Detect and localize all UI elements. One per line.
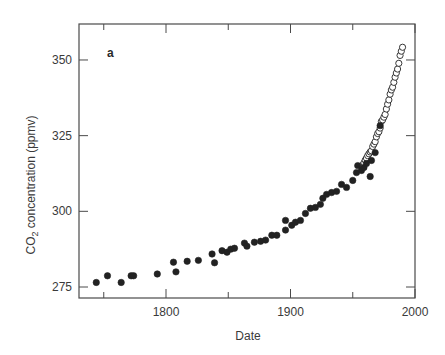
x-tick-label: 2000 — [402, 305, 429, 319]
x-tick-label: 1900 — [277, 305, 304, 319]
ice-core-point — [302, 210, 308, 216]
y-axis-title: CO2 concentration (ppmv) — [24, 115, 40, 254]
ice-core-point — [104, 273, 110, 279]
ice-core-point — [297, 217, 303, 223]
ice-core-point — [209, 251, 215, 257]
ice-core-point — [170, 259, 176, 265]
ice-core-point — [130, 273, 136, 279]
panel-label: a — [107, 46, 114, 60]
ice-core-point — [251, 239, 257, 245]
ice-core-point — [244, 243, 250, 249]
ice-core-point — [195, 257, 201, 263]
atmospheric-point — [394, 66, 400, 72]
ice-core-point — [274, 232, 280, 238]
y-axis-title-main: CO — [24, 237, 38, 255]
ice-core-point — [317, 201, 323, 207]
ice-core-point — [350, 177, 356, 183]
y-tick-label: 300 — [52, 204, 72, 218]
ice-core-point — [118, 279, 124, 285]
ice-core-point — [333, 188, 339, 194]
y-tick-label: 325 — [52, 129, 72, 143]
atmospheric-point — [386, 97, 392, 103]
ice-core-point — [343, 184, 349, 190]
co2-concentration-chart: 180019002000 275300325350 a Date CO2 con… — [0, 0, 445, 355]
ice-core-point — [173, 269, 179, 275]
ice-core-point — [154, 271, 160, 277]
ice-core-point — [377, 122, 383, 128]
y-tick-label: 275 — [52, 280, 72, 294]
ice-core-point — [282, 227, 288, 233]
x-axis-title: Date — [235, 329, 261, 343]
ice-core-point — [184, 258, 190, 264]
y-tick-label: 350 — [52, 53, 72, 67]
ice-core-point — [231, 245, 237, 251]
ice-core-point — [262, 237, 268, 243]
ice-core-point — [282, 217, 288, 223]
ice-core-point — [372, 149, 378, 155]
ice-core-point — [367, 173, 373, 179]
y-axis-title-rest: concentration (ppmv) — [24, 115, 38, 231]
x-tick-label: 1800 — [153, 305, 180, 319]
ice-core-point — [93, 279, 99, 285]
atmospheric-point — [396, 60, 402, 66]
atmospheric-point — [399, 44, 405, 50]
ice-core-point — [368, 157, 374, 163]
ice-core-point — [211, 260, 217, 266]
